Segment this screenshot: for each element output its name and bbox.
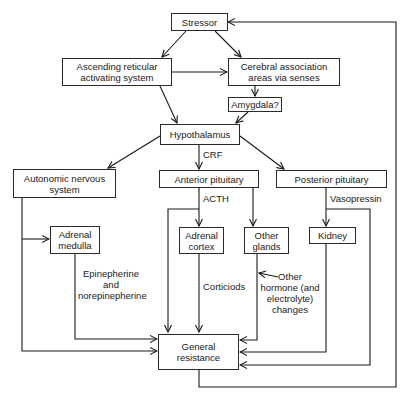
node-posterior-pituitary: Posterior pituitary bbox=[276, 170, 387, 188]
node-label: General resistance bbox=[161, 341, 236, 363]
node-label: Ascending reticular activating system bbox=[65, 61, 169, 83]
node-label: Stressor bbox=[182, 17, 217, 28]
node-ascending-reticular: Ascending reticular activating system bbox=[62, 58, 172, 86]
node-label: Adrenal medulla bbox=[53, 229, 97, 251]
node-label: Posterior pituitary bbox=[295, 174, 369, 185]
edge-label-epinephrine: Epinepherine and norepinepherine bbox=[78, 268, 144, 301]
node-autonomic-nervous-system: Autonomic nervous system bbox=[13, 169, 116, 198]
node-label: Anterior pituitary bbox=[174, 174, 243, 185]
node-label: Adrenal cortex bbox=[182, 230, 221, 252]
edge-label-corticoids: Corticiods bbox=[203, 281, 245, 292]
node-label: Amygdala? bbox=[231, 99, 279, 110]
edge-label-vasopressin: Vasopressin bbox=[330, 193, 382, 204]
node-label: Other glands bbox=[247, 230, 286, 252]
node-label: Hypothalamus bbox=[170, 129, 231, 140]
node-kidney: Kidney bbox=[309, 227, 356, 244]
node-stressor: Stressor bbox=[171, 13, 228, 31]
node-label: Cerebral association areas via senses bbox=[231, 61, 337, 83]
node-cerebral-association: Cerebral association areas via senses bbox=[228, 58, 340, 86]
node-adrenal-medulla: Adrenal medulla bbox=[50, 226, 100, 254]
node-label: Autonomic nervous system bbox=[16, 173, 113, 195]
node-general-resistance: General resistance bbox=[158, 334, 239, 370]
edge-label-crf: CRF bbox=[203, 149, 223, 160]
node-hypothalamus: Hypothalamus bbox=[160, 124, 240, 145]
node-label: Kidney bbox=[318, 230, 347, 241]
node-adrenal-cortex: Adrenal cortex bbox=[179, 227, 224, 254]
edge-label-acth: ACTH bbox=[203, 193, 229, 204]
node-other-glands: Other glands bbox=[244, 227, 289, 254]
node-anterior-pituitary: Anterior pituitary bbox=[159, 170, 259, 188]
edge-label-other-hormone: Other hormone (and electrolyte) changes bbox=[259, 271, 321, 315]
node-amygdala: Amygdala? bbox=[228, 97, 282, 112]
